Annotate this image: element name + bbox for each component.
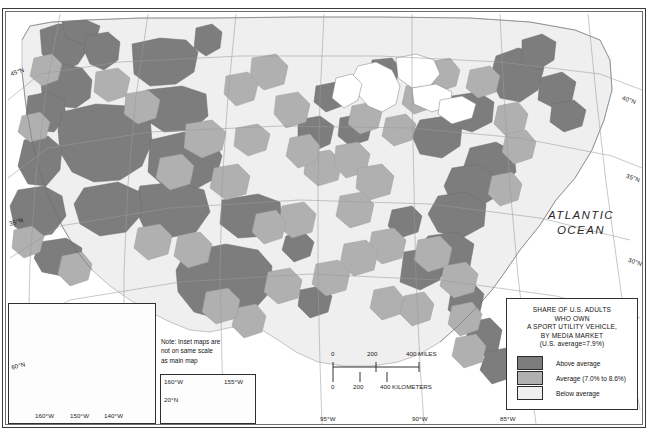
- inset-note-line-1: Note: Inset maps are: [161, 337, 257, 346]
- alaska-label-160w: 160°W: [35, 412, 54, 419]
- graticule-label-bottom-85w: 85°W: [500, 415, 516, 422]
- legend-items: Above average Average (7.0% to 8.6%) Bel…: [513, 356, 631, 401]
- scale-km-tick-0: 0: [331, 383, 334, 390]
- hawaii-label-20n: 20°N: [164, 396, 178, 403]
- hawaii-label-160w: 160°W: [164, 378, 183, 385]
- scale-miles-tick-0: 0: [331, 350, 334, 357]
- inset-note: Note: Inset maps are not on same scale a…: [161, 337, 257, 365]
- legend-swatch-average: [517, 371, 543, 385]
- legend-title-line-1: SHARE OF U.S. ADULTS: [513, 306, 631, 315]
- alaska-label-140w: 140°W: [104, 412, 123, 419]
- graticule-label-bottom-90w: 90°W: [412, 415, 428, 422]
- legend-item-above-average: Above average: [517, 356, 631, 371]
- thematic-map-figure: 45°N 35°N 40°N 35°N 30°N 95°W 90°W 85°W …: [0, 0, 650, 432]
- hawaii-label-155w: 155°W: [224, 378, 243, 385]
- graticule-label-bottom-95w: 95°W: [320, 415, 336, 422]
- legend-swatch-below-average: [517, 386, 543, 400]
- legend: SHARE OF U.S. ADULTS WHO OWN A SPORT UTI…: [506, 298, 638, 410]
- ocean-label-line2: OCEAN: [548, 223, 614, 238]
- inset-note-line-2: not on same scale: [161, 346, 257, 355]
- legend-label-below-average: Below average: [556, 390, 600, 397]
- scale-bar: 0 200 400 MILES 0 200 400 KILOMETERS: [330, 345, 460, 393]
- legend-item-average: Average (7.0% to 8.6%): [517, 371, 631, 386]
- legend-label-average: Average (7.0% to 8.6%): [556, 375, 626, 382]
- legend-label-above-average: Above average: [556, 360, 600, 367]
- ocean-label-line1: ATLANTIC: [548, 208, 614, 223]
- legend-swatch-above-average: [517, 356, 543, 370]
- inset-note-line-3: as main map: [161, 356, 257, 365]
- legend-item-below-average: Below average: [517, 386, 631, 401]
- alaska-label-150w: 150°W: [70, 412, 89, 419]
- scale-km-tick-200: 200: [353, 383, 363, 390]
- legend-title-line-5: (U.S. average=7.9%): [513, 340, 631, 349]
- legend-title-line-3: A SPORT UTILITY VEHICLE,: [513, 323, 631, 332]
- legend-title: SHARE OF U.S. ADULTS WHO OWN A SPORT UTI…: [513, 306, 631, 349]
- legend-title-line-4: BY MEDIA MARKET: [513, 332, 631, 341]
- scale-km-tick-400: 400 KILOMETERS: [380, 383, 432, 390]
- legend-title-line-2: WHO OWN: [513, 315, 631, 324]
- ocean-label: ATLANTIC OCEAN: [548, 208, 614, 238]
- alaska-inset: [8, 303, 156, 424]
- scale-miles-tick-400: 400 MILES: [406, 350, 437, 357]
- scale-miles-tick-200: 200: [367, 350, 377, 357]
